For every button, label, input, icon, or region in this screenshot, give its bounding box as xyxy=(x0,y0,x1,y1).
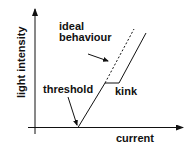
diagram-canvas: light intensity current ideal behaviour … xyxy=(0,0,191,150)
ideal-label-line2: behaviour xyxy=(59,31,112,43)
kink-label: kink xyxy=(115,85,138,97)
y-axis-label: light intensity xyxy=(15,26,27,98)
x-axis-label: current xyxy=(116,132,154,144)
light-current-diagram: light intensity current ideal behaviour … xyxy=(0,0,191,150)
actual-curve xyxy=(78,33,146,128)
threshold-label: threshold xyxy=(43,83,93,95)
threshold-pointer-arrow xyxy=(68,97,77,125)
ideal-pointer-arrow xyxy=(88,54,108,61)
